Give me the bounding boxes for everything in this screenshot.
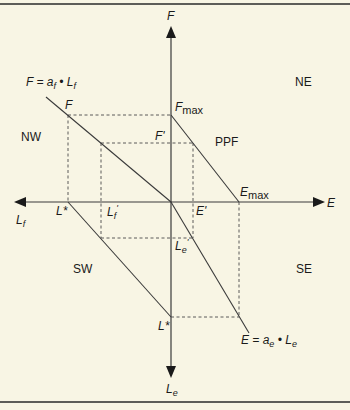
quadrant-nw-label: NW [21,130,42,144]
axis-label-le: Le [166,382,178,398]
quadrant-sw-label: SW [73,262,93,276]
point-f-prime-label: F' [155,129,165,143]
axis-label-f: F [167,9,175,23]
axis-label-e: E [327,196,336,210]
point-lstar-left-label: L* [56,204,68,218]
ppf-label: PPF [215,135,238,149]
ppf-line [171,115,239,202]
arrow-down-icon [166,366,176,378]
sw-labor-constraint-line [68,202,171,317]
arrow-right-icon [313,197,325,207]
quadrant-ne-label: NE [295,75,312,89]
point-le-prime-label: Le' [175,237,189,255]
quadrant-se-label: SE [296,262,312,276]
point-lf-prime-label: Lf' [107,203,118,221]
axis-label-lf: Lf [16,213,27,229]
point-emax-label: Emax [240,185,269,201]
outer-dashed-rectangle [68,115,239,317]
four-quadrant-diagram: F E Lf Le NW NE SW SE PPF F = af • Lf E … [0,0,350,410]
point-lstar-bottom-label: L* [158,319,170,333]
nw-equation: F = af • Lf [26,75,78,91]
arrow-up-icon [166,26,176,38]
point-e-prime-label: E' [196,204,207,218]
point-f-label: F [65,98,73,112]
se-production-line [171,202,249,333]
se-equation: E = ae • Le [241,333,297,349]
inner-dashed-rectangle [101,143,193,238]
point-fmax-label: Fmax [175,100,204,116]
nw-production-line [46,97,171,202]
arrow-left-icon [14,197,26,207]
